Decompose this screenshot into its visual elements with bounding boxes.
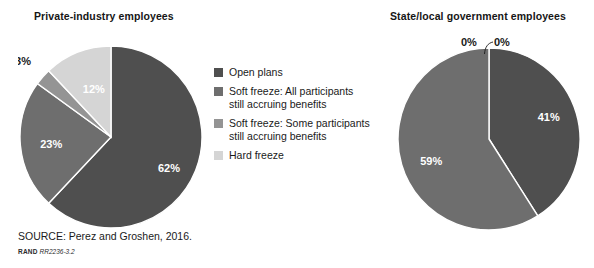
callout-leader-line-icon (481, 40, 495, 56)
pie-chart-private-industry: 62%23%3%12% (18, 44, 204, 230)
rand-figure-code: RANDRR2236-3.2 (18, 248, 75, 255)
legend-swatch-icon (214, 87, 223, 96)
callout-zero-percent-right: 0% (494, 36, 510, 48)
legend-item-label: Open plans (229, 66, 283, 78)
figure-pension-plan-status: Private-industry employees 62%23%3%12% S… (0, 0, 594, 268)
legend-item-label: Hard freeze (229, 149, 284, 161)
legend-item: Hard freeze (214, 149, 374, 161)
pie-slice-label: 23% (40, 138, 62, 150)
legend-item-label: Soft freeze: Some participants still acc… (229, 117, 370, 142)
legend-swatch-icon (214, 151, 223, 160)
rand-wordmark: RAND (18, 248, 38, 255)
legend-item: Soft freeze: Some participants still acc… (214, 117, 374, 142)
pie-slice-label: 3% (18, 55, 31, 67)
callout-zero-percent-left: 0% (461, 36, 477, 48)
source-note: SOURCE: Perez and Groshen, 2016. (18, 230, 192, 242)
legend-swatch-icon (214, 119, 223, 128)
chart-title-private-industry: Private-industry employees (34, 10, 174, 22)
legend-item: Soft freeze: All participants still accr… (214, 85, 374, 110)
legend: Open plansSoft freeze: All participants … (214, 66, 374, 168)
chart-title-state-local: State/local government employees (390, 10, 566, 22)
pie-chart-state-local: 41%59% (396, 46, 582, 232)
pie-slice-label: 12% (83, 83, 105, 95)
rand-figure-id: RR2236-3.2 (40, 248, 75, 255)
legend-item-label: Soft freeze: All participants still accr… (229, 85, 353, 110)
pie-chart-private-industry-svg: 62%23%3%12% (18, 44, 204, 230)
legend-swatch-icon (214, 68, 223, 77)
legend-item: Open plans (214, 66, 374, 78)
pie-slice-label: 62% (158, 162, 180, 174)
pie-chart-state-local-svg: 41%59% (396, 46, 582, 232)
pie-slice-label: 41% (538, 111, 560, 123)
pie-slice-label: 59% (420, 155, 442, 167)
